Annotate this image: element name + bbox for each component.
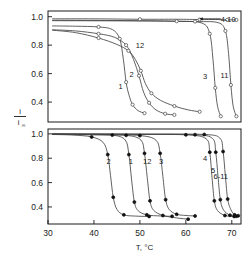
data-point-5: [228, 214, 231, 217]
x-tick-label-70: 70: [227, 228, 237, 238]
data-point-11: [193, 20, 196, 23]
curve-annotation-6-11: 6-11: [214, 172, 228, 181]
y-tick-label-0.8: 0.8: [31, 153, 43, 163]
data-point-6-11: [233, 213, 236, 216]
x-tick-label-60: 60: [181, 228, 191, 238]
data-point-5: [219, 198, 222, 201]
data-point-1: [143, 112, 146, 115]
data-point-5: [194, 133, 197, 136]
x-axis-title: T, °C: [136, 243, 154, 252]
data-point-2: [125, 44, 128, 47]
data-point-12: [161, 214, 164, 217]
data-point-12: [173, 104, 176, 107]
data-point-1: [133, 201, 136, 204]
data-point-12: [127, 49, 130, 52]
y-tick-label-0.4: 0.4: [31, 97, 43, 107]
curve-annotation-12: 12: [136, 41, 144, 50]
data-point-2: [137, 74, 140, 77]
data-point-3: [138, 134, 141, 137]
curve-annotation-3: 3: [159, 157, 163, 166]
data-point-6-11: [203, 133, 206, 136]
data-point-1: [97, 25, 100, 28]
data-point-12: [187, 218, 190, 221]
data-point-2: [164, 112, 167, 115]
y-tick-label-0.8: 0.8: [31, 40, 43, 50]
figure-container: 0.40.60.81.0 4-101221311 0.40.60.81.0 30…: [0, 0, 249, 256]
data-point-3: [164, 198, 167, 201]
data-point-1: [111, 134, 114, 137]
data-point-3: [175, 20, 178, 23]
data-point-2: [106, 153, 109, 156]
data-point-3: [208, 32, 211, 35]
curve-annotation-4-10: 4-10: [221, 15, 236, 24]
data-point-12: [150, 92, 153, 95]
data-point-1: [125, 81, 128, 84]
data-point-4-10: [138, 18, 141, 21]
y-tick-label-1.0: 1.0: [31, 12, 43, 22]
data-point-3: [214, 86, 217, 89]
y-tick-label-0.6: 0.6: [31, 178, 43, 188]
data-point-1: [145, 213, 148, 216]
data-point-2: [122, 213, 125, 216]
data-point-4: [184, 133, 187, 136]
chart-svg: 0.40.60.81.0 4-101221311 0.40.60.81.0 30…: [0, 0, 249, 256]
data-point-4: [208, 151, 211, 154]
curve-annotation-1: 1: [129, 157, 133, 166]
data-point-1: [118, 37, 121, 40]
data-point-11: [224, 29, 227, 32]
data-point-2: [112, 196, 115, 199]
x-tick-label-40: 40: [89, 228, 99, 238]
x-tick-label-50: 50: [135, 228, 145, 238]
data-point-1: [127, 153, 130, 156]
curve-annotation-4: 4: [203, 154, 207, 163]
data-point-12: [97, 36, 100, 39]
data-point-6-11: [226, 198, 229, 201]
data-point-3: [194, 214, 197, 217]
data-point-3: [159, 152, 162, 155]
data-point-11: [229, 83, 232, 86]
curve-annotation-12: 12: [143, 157, 151, 166]
data-point-6-11: [237, 214, 240, 217]
data-point-12: [139, 69, 142, 72]
data-point-4: [213, 199, 216, 202]
data-point-5: [214, 151, 217, 154]
y-tick-label-1.0: 1.0: [31, 129, 43, 139]
data-point-1: [131, 103, 134, 106]
data-point-2: [97, 32, 100, 35]
data-point-6-11: [222, 150, 225, 153]
y-tick-label-0.4: 0.4: [31, 202, 43, 212]
data-point-2: [90, 135, 93, 138]
y-axis-title-denominator-subscript: ∞: [22, 122, 26, 128]
data-point-4: [223, 214, 226, 217]
data-point-2: [173, 113, 176, 116]
curve-annotation-11: 11: [221, 71, 229, 80]
x-tick-label-30: 30: [43, 228, 53, 238]
data-point-2: [148, 101, 151, 104]
data-point-1: [171, 215, 174, 218]
data-point-12: [198, 110, 201, 113]
curve-annotation-2: 2: [107, 157, 111, 166]
data-point-3: [175, 213, 178, 216]
data-point-12: [125, 134, 128, 137]
data-point-11: [235, 115, 238, 118]
data-point-12: [149, 199, 152, 202]
curve-annotation-2: 2: [130, 70, 134, 79]
data-point-3: [219, 115, 222, 118]
y-tick-label-0.6: 0.6: [31, 69, 43, 79]
data-point-12: [143, 152, 146, 155]
curve-annotation-3: 3: [203, 72, 207, 81]
curve-annotation-1: 1: [119, 82, 123, 91]
